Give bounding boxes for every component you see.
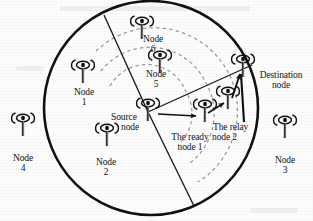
label-node-1: Node 1 <box>68 87 100 107</box>
label-node-1-line1: Node <box>68 87 100 97</box>
label-node-3-line2: 3 <box>269 165 301 175</box>
label-node-5-line1: Node <box>146 69 166 79</box>
label-node-3-line1: Node <box>269 155 301 165</box>
label-node-2-line1: Node <box>90 157 122 167</box>
label-node-4: Node 4 <box>7 153 39 173</box>
label-node-2: Node 2 <box>90 157 122 177</box>
label-node-6: Node 6 <box>143 34 163 54</box>
label-node-3: Node 3 <box>269 155 301 175</box>
label-node-4-line1: Node <box>7 153 39 163</box>
label-node-5-line2: 5 <box>146 79 166 89</box>
source-node-antenna-icon[interactable] <box>137 98 160 121</box>
label-node-6-line2: 6 <box>143 44 163 54</box>
label-destination-node-line2: node <box>250 80 312 90</box>
diagram-canvas: Node 6 Node 5 Node 1 Node 2 Node 4 Node … <box>0 0 313 221</box>
label-relay-node-2-line1: The relay <box>213 122 248 132</box>
label-node-5: Node 5 <box>146 69 166 89</box>
label-ready-node-1-line2: node 1 <box>159 142 221 152</box>
node-1-antenna-icon[interactable] <box>72 60 95 83</box>
node-4-antenna-icon[interactable] <box>12 113 35 136</box>
label-relay-node-2-line2: node 2 <box>212 132 248 142</box>
label-node-2-line2: 2 <box>90 167 122 177</box>
link-source-to-ready <box>158 114 196 116</box>
label-source-node-line1: Source <box>111 112 139 122</box>
label-destination-node: Destination node <box>250 70 312 90</box>
label-destination-node-line1: Destination <box>250 70 312 80</box>
label-node-6-line1: Node <box>143 34 163 44</box>
label-node-4-line2: 4 <box>7 163 39 173</box>
links-group <box>158 74 244 122</box>
link-destination-trunk <box>241 74 244 122</box>
sector-line-lower-right <box>148 112 194 206</box>
label-node-1-line2: 1 <box>68 97 100 107</box>
label-source-node: Source node <box>111 112 139 132</box>
node-3-antenna-icon[interactable] <box>274 115 297 138</box>
sector-lines-group <box>104 15 252 206</box>
label-source-node-line2: node <box>121 122 139 132</box>
label-relay-node-2: The relay node 2 <box>213 122 248 142</box>
